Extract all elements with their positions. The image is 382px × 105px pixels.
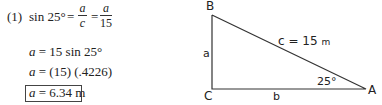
vertex-label-c: C <box>204 89 212 103</box>
triangle-shape <box>0 0 382 105</box>
side-label-b: b <box>273 90 280 103</box>
angle-label-a: 25° <box>317 75 337 88</box>
hypotenuse-length: c = 15 <box>278 34 318 48</box>
side-label-c: c = 15 m <box>278 34 330 48</box>
vertex-label-b: B <box>206 0 214 13</box>
side-label-a: a <box>203 47 210 60</box>
hypotenuse-unit: m <box>321 37 330 47</box>
vertex-label-a: A <box>368 83 376 97</box>
